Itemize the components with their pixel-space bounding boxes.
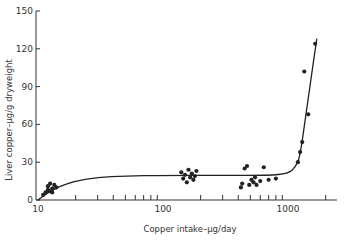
data-point <box>253 175 257 179</box>
fitted-curve-path <box>38 39 317 200</box>
y-tick-label: 150 <box>16 6 33 16</box>
y-tick-label: 120 <box>16 44 33 54</box>
data-point <box>267 178 271 182</box>
data-point <box>262 165 266 169</box>
data-point <box>313 42 317 46</box>
data-points <box>41 42 317 197</box>
x-tick-label: 1000 <box>277 204 300 214</box>
x-tick-label: 10 <box>32 204 44 214</box>
data-point <box>239 185 243 189</box>
data-point <box>300 140 304 144</box>
data-point <box>240 182 244 186</box>
data-point <box>193 174 197 178</box>
axes: 0306090120150101001000 <box>16 6 337 214</box>
y-tick-label: 90 <box>22 82 34 92</box>
y-tick-label: 60 <box>22 119 34 129</box>
data-point <box>306 112 310 116</box>
data-point <box>54 185 58 189</box>
data-point <box>48 189 52 193</box>
x-axis-label: Copper intake–µg/day <box>143 224 236 234</box>
data-point <box>258 179 262 183</box>
data-point <box>183 173 187 177</box>
fitted-curve <box>38 39 317 200</box>
data-point <box>296 160 300 164</box>
y-axis-label: Liver copper–µg/g dryweight <box>4 59 14 181</box>
data-point <box>302 69 306 73</box>
chart-canvas: 0306090120150101001000 Copper intake–µg/… <box>0 0 345 241</box>
y-tick-label: 30 <box>22 157 34 167</box>
data-point <box>179 170 183 174</box>
data-point <box>245 164 249 168</box>
x-tick-label: 100 <box>154 204 171 214</box>
data-point <box>194 169 198 173</box>
data-point <box>181 176 185 180</box>
data-point <box>185 180 189 184</box>
data-point <box>48 182 52 186</box>
data-point <box>254 183 258 187</box>
data-point <box>274 176 278 180</box>
data-point <box>247 183 251 187</box>
data-point <box>191 178 195 182</box>
data-point <box>186 168 190 172</box>
data-point <box>298 150 302 154</box>
